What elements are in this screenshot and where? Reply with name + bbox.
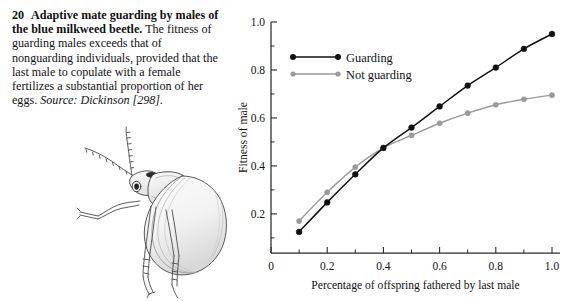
data-point [465,111,470,116]
x-axis-title: Percentage of offspring fathered by last… [311,279,519,292]
fitness-line-chart: 0.20.40.60.81.000.20.40.60.81.0Percentag… [232,0,584,301]
figure-source-label: Source: [40,93,77,107]
figure-number: 20 [12,8,24,22]
data-point [549,31,555,37]
data-point [381,145,387,151]
legend-label: Not guarding [346,68,412,82]
data-point [437,104,443,110]
data-point [353,165,358,170]
legend-swatch-marker-end [335,71,340,76]
series-not-guarding [297,93,555,224]
data-point [521,46,527,52]
data-point [549,93,554,98]
legend-swatch-marker-start [290,54,296,60]
x-axis-tick-label: 0.2 [320,260,335,272]
series-guarding [296,31,555,235]
data-point [352,171,358,177]
data-point [465,83,471,89]
x-axis-tick-label: 0 [268,260,274,272]
data-point [409,125,415,131]
data-point [297,219,302,224]
legend-entry-not-guarding[interactable]: Not guarding [290,68,411,82]
y-axis-tick-label: 0.4 [251,160,266,172]
data-point [324,199,330,205]
y-axis-tick-label: 0.8 [251,64,266,76]
data-point [409,133,414,138]
x-axis-tick-label: 0.4 [376,260,391,272]
figure-caption: 20Adaptive mate guarding by males of the… [12,8,222,107]
data-point [493,65,499,71]
data-point [296,229,302,235]
legend-swatch-marker-start [290,71,295,76]
beetle-body-group [77,127,226,298]
figure-left-column: 20Adaptive mate guarding by males of the… [0,0,232,301]
x-axis-tick-label: 0.6 [432,260,447,272]
series-line [299,95,552,221]
y-axis-tick-label: 0.2 [251,208,266,220]
x-axis-tick-label: 1.0 [545,260,560,272]
data-point [325,190,330,195]
beetle-front-leg [77,201,140,219]
x-axis-tick-label: 0.8 [489,260,504,272]
beetle-antennae [85,127,134,175]
y-axis-tick-label: 0.6 [251,112,266,124]
beetle-illustration [14,126,232,298]
series-line [299,34,552,232]
legend-label: Guarding [346,51,393,65]
data-point [437,121,442,126]
legend-swatch-marker-end [335,54,341,60]
figure-source-citation: Dickinson [298]. [80,93,163,107]
legend-entry-guarding[interactable]: Guarding [290,51,393,65]
data-point [493,102,498,107]
y-axis-title: Fitness of male [237,102,250,173]
data-point [521,97,526,102]
y-axis-tick-label: 1.0 [251,16,266,28]
